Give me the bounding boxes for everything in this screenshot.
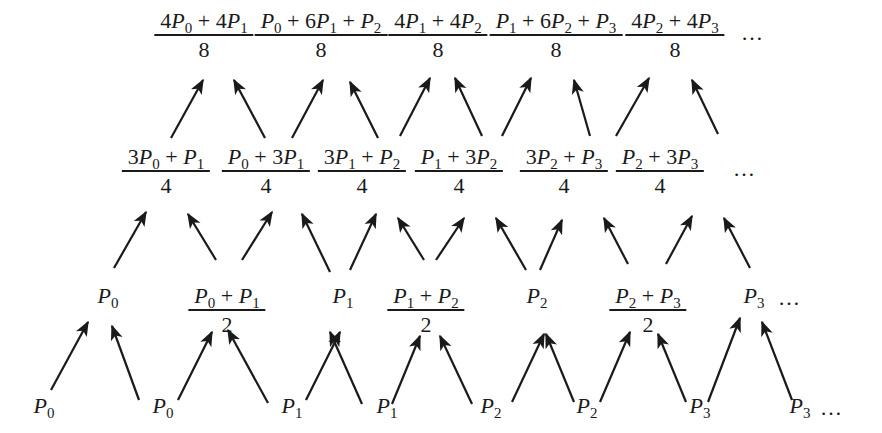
subscript-index: 1 [390, 405, 398, 421]
variable-P: P [642, 8, 655, 33]
subscript-index: 0 [208, 295, 216, 311]
subscript-index: 2 [490, 156, 498, 172]
coefficient: 3 [465, 144, 476, 169]
arrow-up-icon [604, 218, 628, 264]
numerator: P1 + 3P2 [415, 146, 503, 172]
fraction: P0 + P12 [188, 285, 265, 336]
arrow-up-icon [762, 322, 792, 400]
subscript-index: 0 [111, 295, 119, 311]
numerator: P2 + P3 [609, 285, 686, 311]
subscript-index: 1 [240, 20, 248, 36]
arrow-up-icon [666, 216, 692, 264]
coefficient: 3 [526, 144, 537, 169]
node-level-0-1: P0 [153, 395, 174, 417]
arrow-up-icon [114, 212, 146, 268]
variable-P: P [316, 8, 329, 33]
arrow-up-icon [692, 80, 718, 134]
subscript-index: 0 [152, 156, 160, 172]
variable-P: P [98, 283, 111, 308]
subscript-index: 0 [47, 405, 55, 421]
subscript-index: 3 [757, 295, 765, 311]
plus-operator: + [558, 144, 581, 169]
denominator: 8 [550, 36, 561, 61]
node-level-2-0: 3P0 + P14 [122, 146, 210, 197]
numerator: P0 + P1 [188, 285, 265, 311]
numerator: 4P1 + 4P2 [388, 10, 487, 36]
coefficient: 3 [128, 144, 139, 169]
arrows-layer [0, 0, 882, 433]
fraction: 4P0 + 4P18 [154, 10, 253, 61]
arrow-up-icon [502, 78, 531, 136]
fraction: 3P1 + P24 [318, 146, 406, 197]
coefficient: 3 [272, 144, 283, 169]
variable-P: P [690, 393, 703, 418]
plus-operator: + [160, 144, 183, 169]
denominator: 2 [420, 311, 431, 336]
variable-P: P [405, 8, 418, 33]
plus-operator: + [282, 8, 305, 33]
variable-P: P [333, 283, 346, 308]
coefficient: 4 [687, 8, 698, 33]
fraction: 3P2 + P34 [520, 146, 608, 197]
variable-P: P [461, 8, 474, 33]
node-level-1-5: P2 + P32 [609, 285, 686, 336]
subscript-index: 0 [274, 20, 282, 36]
plus-operator: + [663, 8, 686, 33]
node-level-1-0: P0 [98, 285, 119, 307]
arrow-up-icon [512, 334, 544, 402]
subscript-index: 2 [474, 20, 482, 36]
arrow-up-icon [242, 212, 272, 260]
node-level-2-4: 3P2 + P34 [520, 146, 608, 197]
arrow-up-icon [398, 218, 424, 260]
node-level-1-3: P1 + P22 [387, 285, 464, 336]
node-level-1-2: P1 [333, 285, 354, 307]
subscript-index: 2 [540, 295, 548, 311]
arrow-up-icon [51, 322, 88, 390]
subdivision-diagram: 4P0 + 4P18P0 + 6P1 + P284P1 + 4P28P1 + 6… [0, 0, 882, 433]
node-level-3-0: 4P0 + 4P18 [154, 10, 253, 61]
variable-P: P [239, 283, 252, 308]
variable-P: P [581, 144, 594, 169]
plus-operator: + [426, 8, 449, 33]
plus-operator: + [249, 144, 272, 169]
subscript-index: 1 [346, 295, 354, 311]
coefficient: 4 [394, 8, 405, 33]
variable-P: P [595, 8, 608, 33]
subscript-index: 3 [609, 20, 617, 36]
node-level-0-3: P1 [377, 395, 398, 417]
coefficient: 4 [631, 8, 642, 33]
arrow-up-icon [178, 332, 212, 400]
variable-P: P [622, 144, 635, 169]
numerator: 3P1 + P2 [318, 146, 406, 172]
plus-operator: + [215, 283, 238, 308]
subscript-index: 1 [419, 20, 427, 36]
fraction: P1 + 6P2 + P38 [490, 10, 623, 61]
subscript-index: 3 [703, 405, 711, 421]
node-level-0-4: P2 [481, 395, 502, 417]
node-level-2-2: 3P1 + P24 [318, 146, 406, 197]
variable-P: P [183, 144, 196, 169]
denominator: 4 [160, 172, 171, 197]
numerator: 3P2 + P3 [520, 146, 608, 172]
variable-P: P [228, 144, 241, 169]
numerator: P0 + 6P1 + P2 [255, 10, 388, 36]
denominator: 4 [654, 172, 665, 197]
arrow-up-icon [708, 318, 740, 402]
coefficient: 4 [216, 8, 227, 33]
arrow-up-icon [496, 218, 526, 270]
fraction: P2 + 3P34 [616, 146, 704, 197]
denominator: 4 [558, 172, 569, 197]
subscript-index: 1 [509, 20, 517, 36]
variable-P: P [577, 393, 590, 418]
subscript-index: 1 [297, 156, 305, 172]
denominator: 4 [356, 172, 367, 197]
subscript-index: 2 [550, 156, 558, 172]
fraction: P1 + P22 [387, 285, 464, 336]
node-level-0-7: P3 [790, 395, 811, 417]
variable-P: P [282, 393, 295, 418]
numerator: 4P0 + 4P1 [154, 10, 253, 36]
variable-P: P [527, 283, 540, 308]
numerator: P1 + 6P2 + P3 [490, 10, 623, 36]
arrow-up-icon [228, 330, 268, 403]
variable-P: P [227, 8, 240, 33]
